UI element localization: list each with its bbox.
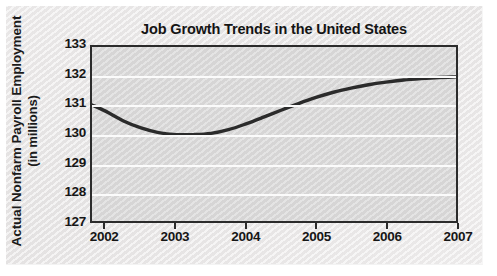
x-tick-label: 2004 [216,229,276,244]
y-tick-label: 127 [52,214,86,229]
x-tick-label: 2002 [74,229,134,244]
y-axis-label-container: Actual Nonfarm Payroll Employment (in mi… [2,8,48,253]
gridline [92,105,456,107]
y-tick-label: 130 [52,125,86,140]
x-tick-label: 2006 [357,229,417,244]
gridline [92,76,456,78]
y-tick-label: 129 [52,155,86,170]
chart-figure: Actual Nonfarm Payroll Employment (in mi… [0,0,497,276]
y-axis-label: Actual Nonfarm Payroll Employment (in mi… [9,15,41,246]
x-tick-label: 2007 [428,229,488,244]
x-axis-tick-labels: 200220032004200520062007 [90,223,458,253]
y-tick-label: 133 [52,36,86,51]
y-axis-label-line2: (in millions) [25,95,40,167]
chart-title: Job Growth Trends in the United States [88,21,460,37]
gridline [92,194,456,196]
plot-area [90,45,458,223]
gridline [92,135,456,137]
gridline [92,165,456,167]
y-tick-label: 132 [52,66,86,81]
y-tick-label: 128 [52,184,86,199]
x-tick-label: 2003 [145,229,205,244]
y-axis-label-line1: Actual Nonfarm Payroll Employment [9,15,24,246]
y-tick-label: 131 [52,95,86,110]
x-tick-label: 2005 [286,229,346,244]
y-axis-tick-labels: 133132131130129128127 [48,45,86,223]
